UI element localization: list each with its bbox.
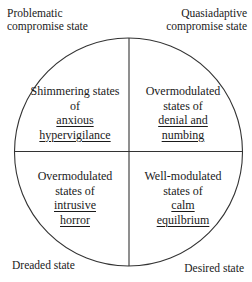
quadrant-denial-numbing: Overmodulated states of denial and numbi… [128, 84, 238, 142]
quadrant-text: Overmodulated [128, 84, 238, 99]
quadrant-key-term: denial and [158, 113, 208, 127]
quadrant-key-term: anxious [56, 113, 93, 127]
quadrant-text: of [20, 99, 130, 114]
quadrant-key-term: intrusive [54, 198, 96, 212]
quadrant-key-term: horror [60, 213, 90, 227]
quadrant-key-term: hypervigilance [39, 128, 110, 142]
quadrant-text: Shimmering states [20, 84, 130, 99]
quadrant-intrusive-horror: Overmodulated states of intrusive horror [20, 169, 130, 227]
quadrant-calm-equilibrium: Well-modulated states of calm equilbrium [128, 169, 238, 227]
quadrant-key-term: equilbrium [157, 213, 210, 227]
quadrant-anxious-hypervigilance: Shimmering states of anxious hypervigila… [20, 84, 130, 142]
quadrant-key-term: numbing [162, 128, 205, 142]
quadrant-text: states of [128, 99, 238, 114]
quadrant-text: Overmodulated [20, 169, 130, 184]
quadrant-text: states of [20, 184, 130, 199]
quadrant-text: states of [128, 184, 238, 199]
quadrant-key-term: calm [171, 198, 194, 212]
quadrant-text: Well-modulated [128, 169, 238, 184]
